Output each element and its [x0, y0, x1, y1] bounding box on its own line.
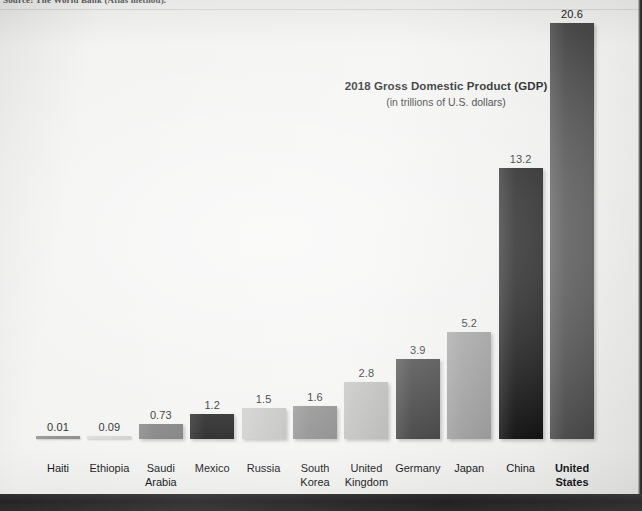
bar-column: 20.6	[546, 9, 598, 439]
bar-value-label: 1.5	[256, 394, 272, 405]
bar-rect	[190, 414, 234, 439]
bar-column: 3.9	[392, 9, 444, 439]
bar-column: 1.2	[186, 9, 238, 439]
bar-column: 1.5	[238, 9, 290, 439]
bar-category-label-line2: States	[541, 476, 603, 490]
bar-value-label: 0.01	[47, 422, 69, 433]
bar-chart-plot-area: 0.01Haiti0.09Ethiopia0.73SaudiArabia1.2M…	[0, 0, 642, 494]
bar-rect	[139, 424, 183, 439]
bar-rect	[499, 168, 543, 439]
bar-category-label-line2: Arabia	[130, 476, 192, 490]
bar-column: 5.2	[443, 9, 495, 439]
bar-category-label-line2: Kingdom	[335, 476, 397, 490]
bar-column: 0.09	[83, 9, 135, 439]
bar-rect	[550, 23, 594, 439]
bar-value-label: 3.9	[410, 345, 426, 356]
bar-value-label: 0.73	[150, 410, 172, 421]
bar-value-label: 1.2	[204, 400, 220, 411]
bar-rect	[293, 406, 337, 439]
bar-rect	[396, 359, 440, 439]
bar-value-label: 5.2	[461, 318, 477, 329]
bar-column: 0.01	[32, 9, 84, 439]
bar-value-label: 13.2	[510, 154, 532, 165]
page-right-edge	[638, 0, 642, 494]
bar-value-label: 20.6	[561, 9, 583, 20]
page-bottom-band	[0, 494, 642, 511]
bar-rect	[242, 408, 286, 439]
bar-rect	[36, 436, 80, 439]
bar-rect	[344, 382, 388, 439]
bar-value-label: 2.8	[359, 368, 375, 379]
bar-value-label: 1.6	[307, 392, 323, 403]
scanned-chart-page: Source: The World Bank (Atlas method). 2…	[0, 0, 642, 511]
bar-column: 2.8	[340, 9, 392, 439]
bar-rect	[447, 332, 491, 439]
bar-category-label: UnitedStates	[541, 462, 603, 489]
bar-value-label: 0.09	[98, 422, 120, 433]
bar-column: 0.73	[135, 9, 187, 439]
bar-column: 13.2	[495, 9, 547, 439]
bar-rect	[87, 436, 131, 439]
bar-category-label-line1: United	[541, 462, 603, 476]
bar-column: 1.6	[289, 9, 341, 439]
